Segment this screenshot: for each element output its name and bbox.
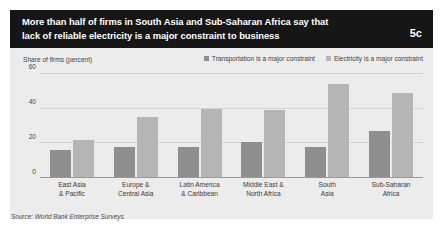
- bar: [264, 110, 285, 178]
- legend-item-transportation: Transportation is a major constraint: [204, 55, 315, 62]
- bar: [114, 147, 135, 178]
- page-title: More than half of firms in South Asia an…: [22, 15, 372, 42]
- legend-swatch-transportation: [204, 56, 209, 61]
- bar-group: [359, 74, 423, 178]
- x-axis-label: Europe &Central Asia: [104, 181, 168, 198]
- y-tick-label-20: 20: [29, 133, 36, 140]
- chart-legend: Transportation is a major constraint Ele…: [204, 55, 423, 62]
- bar: [241, 142, 262, 178]
- figure-number: 5c: [410, 27, 422, 39]
- chart-header: More than half of firms in South Asia an…: [10, 10, 433, 48]
- legend-item-electricity: Electricity is a major constraint: [326, 55, 423, 62]
- bar: [369, 131, 390, 178]
- legend-label-electricity: Electricity is a major constraint: [334, 55, 423, 62]
- bar-group: [295, 74, 359, 178]
- x-axis-label: East Asia& Pacific: [40, 181, 104, 198]
- x-axis-label: Latin America& Caribbean: [168, 181, 232, 198]
- legend-label-transportation: Transportation is a major constraint: [212, 55, 315, 62]
- bar: [178, 147, 199, 178]
- bar: [50, 150, 71, 178]
- bar: [201, 109, 222, 178]
- bar-group: [231, 74, 295, 178]
- bar: [305, 147, 326, 178]
- x-axis-line: [40, 177, 423, 178]
- y-tick-label-60: 60: [29, 63, 36, 70]
- chart-figure: More than half of firms in South Asia an…: [0, 0, 443, 229]
- bar: [73, 140, 94, 178]
- x-axis-label: Sub-SaharanAfrica: [359, 181, 423, 198]
- y-tick-label-40: 40: [29, 98, 36, 105]
- bar: [137, 117, 158, 178]
- source-note: Source: World Bank Enterprise Surveys.: [11, 213, 125, 220]
- x-axis-labels: East Asia& PacificEurope &Central AsiaLa…: [40, 181, 423, 198]
- x-axis-label: Middle East &North Africa: [231, 181, 295, 198]
- bar-group: [168, 74, 232, 178]
- plot-area: 0204060: [40, 74, 423, 178]
- bar: [328, 84, 349, 178]
- legend-swatch-electricity: [326, 56, 331, 61]
- bar-group: [40, 74, 104, 178]
- chart-panel: Share of firms (percent) Transportation …: [10, 48, 433, 219]
- bar-groups: [40, 74, 423, 178]
- bar-group: [104, 74, 168, 178]
- x-axis-label: SouthAsia: [295, 181, 359, 198]
- title-line-1: More than half of firms in South Asia an…: [22, 15, 372, 29]
- y-tick-label-0: 0: [32, 168, 36, 175]
- bar: [392, 93, 413, 178]
- title-line-2: lack of reliable electricity is a major …: [22, 29, 372, 43]
